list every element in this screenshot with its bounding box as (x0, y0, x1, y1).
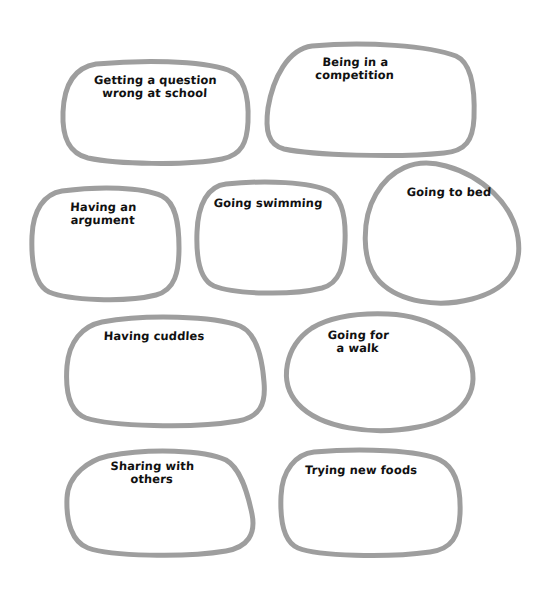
blob-shape-having-cuddles[interactable] (67, 317, 265, 426)
blob-shape-trying-new-foods[interactable] (281, 450, 460, 555)
blob-shape-having-an-argument[interactable] (32, 188, 179, 300)
blob-shape-sharing-with-others[interactable] (67, 451, 253, 555)
blob-shape-going-to-bed[interactable] (365, 163, 519, 303)
blob-shape-getting-a-question-wrong-at-school[interactable] (63, 62, 248, 164)
worksheet-canvas: Getting a question wrong at school Being… (0, 0, 541, 593)
blob-shape-going-for-a-walk[interactable] (287, 314, 473, 431)
blob-shape-being-in-a-competition[interactable] (267, 44, 474, 155)
blob-shape-going-swimming[interactable] (197, 182, 345, 293)
blob-outlines (0, 0, 541, 593)
